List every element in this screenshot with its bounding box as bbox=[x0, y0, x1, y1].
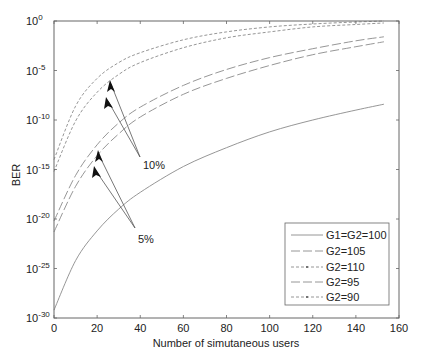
ber-chart: 020406080100120140160 10010-510-1010-151… bbox=[0, 0, 424, 361]
arrowhead-icon bbox=[104, 97, 113, 109]
svg-text:G2=90: G2=90 bbox=[326, 291, 359, 303]
svg-text:G2=105: G2=105 bbox=[326, 245, 365, 257]
x-tick-label: 80 bbox=[220, 322, 232, 334]
legend: G1=G2=100G2=105G2=110G2=95G2=90 bbox=[285, 223, 389, 305]
curve-g2-110 bbox=[54, 23, 384, 172]
y-tick-label: 10-20 bbox=[26, 211, 50, 225]
svg-text:G2=95: G2=95 bbox=[326, 276, 359, 288]
curve-g2-90 bbox=[54, 21, 384, 160]
x-tick-label: 0 bbox=[51, 322, 57, 334]
x-axis-title: Number of simutaneous users bbox=[153, 337, 300, 349]
y-tick-label: 10-25 bbox=[26, 261, 50, 275]
x-tick-label: 60 bbox=[177, 322, 189, 334]
arrowhead-icon bbox=[92, 166, 101, 178]
x-tick-label: 20 bbox=[91, 322, 103, 334]
y-tick-label: 10-15 bbox=[26, 162, 50, 176]
y-axis-title: BER bbox=[10, 164, 22, 187]
y-tick-label: 10-5 bbox=[26, 63, 46, 77]
x-tick-label: 140 bbox=[347, 322, 365, 334]
curve-g2-95 bbox=[54, 37, 384, 221]
x-tick-label: 40 bbox=[134, 322, 146, 334]
y-tick-label: 10-10 bbox=[26, 112, 50, 126]
x-tick-label: 120 bbox=[304, 322, 322, 334]
annotation-label-10: 10% bbox=[143, 159, 165, 171]
svg-text:G1=G2=100: G1=G2=100 bbox=[326, 229, 387, 241]
y-tick-label: 10-30 bbox=[26, 310, 50, 324]
x-tick-label: 100 bbox=[260, 322, 278, 334]
annotation-10-percent: 10% bbox=[104, 80, 165, 171]
x-tick-label: 160 bbox=[390, 322, 408, 334]
annotation-label-5: 5% bbox=[138, 233, 154, 245]
svg-text:G2=110: G2=110 bbox=[326, 261, 365, 273]
y-tick-label: 100 bbox=[26, 13, 43, 27]
